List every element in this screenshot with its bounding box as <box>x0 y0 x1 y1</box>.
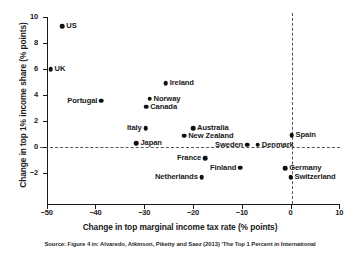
data-point-label: Denmark <box>262 141 294 149</box>
x-axis-tick-label: 10 <box>324 209 354 217</box>
x-axis-tick-label: −20 <box>178 209 208 217</box>
scatter-chart-figure: −20246810−50−40−30−20−10010 USUKPortugal… <box>0 0 360 258</box>
data-point-label: Switzerland <box>295 173 336 181</box>
y-axis-tick <box>43 173 48 174</box>
data-point <box>163 81 168 86</box>
zero-horizontal-reference-line <box>40 147 340 148</box>
data-point-label: UK <box>55 65 66 73</box>
x-axis-tick-label: −40 <box>80 209 110 217</box>
data-point <box>191 126 196 131</box>
data-point <box>147 97 152 102</box>
y-axis-tick <box>43 121 48 122</box>
y-axis-tick <box>43 17 48 18</box>
data-point <box>182 133 187 138</box>
y-axis-tick <box>43 95 48 96</box>
data-point-label: Spain <box>296 131 316 139</box>
data-point-label: Japan <box>140 139 161 147</box>
data-point <box>99 99 104 104</box>
data-point <box>238 165 243 170</box>
data-point-label: Sweden <box>215 141 243 149</box>
data-point-label: Ireland <box>170 80 194 88</box>
data-point-label: Finland <box>210 164 236 172</box>
y-axis-title: Change in top 1% income share (% points) <box>18 10 28 200</box>
y-axis-tick <box>43 147 48 148</box>
data-point <box>48 67 53 72</box>
source-note: Source: Figure 4 in: Alvaredo, Atkinson,… <box>0 241 360 247</box>
data-point <box>143 126 148 131</box>
data-point <box>256 143 261 148</box>
y-axis-tick <box>43 43 48 44</box>
data-point-label: France <box>177 155 201 163</box>
data-point <box>245 143 250 148</box>
data-point-label: Portugal <box>67 97 97 105</box>
data-point <box>203 156 208 161</box>
x-axis-title: Change in top marginal income tax rate (… <box>0 222 360 232</box>
data-point-label: Germany <box>289 164 321 172</box>
x-axis-tick-label: −50 <box>32 209 62 217</box>
y-axis-line <box>47 17 48 204</box>
data-point <box>199 175 204 180</box>
data-point-label: Italy <box>127 124 142 132</box>
data-point <box>283 166 288 171</box>
y-axis-tick <box>43 69 48 70</box>
data-point <box>289 133 294 138</box>
data-point-label: Canada <box>150 103 177 111</box>
data-point-label: New Zealand <box>188 132 233 140</box>
x-axis-tick-label: 0 <box>276 209 306 217</box>
data-point <box>144 104 149 109</box>
x-axis-tick-label: −30 <box>129 209 159 217</box>
data-point <box>134 141 139 146</box>
data-point <box>60 24 65 29</box>
data-point-label: Netherlands <box>155 173 198 181</box>
data-point-label: US <box>66 23 76 31</box>
x-axis-tick-label: −10 <box>227 209 257 217</box>
data-point <box>288 175 293 180</box>
